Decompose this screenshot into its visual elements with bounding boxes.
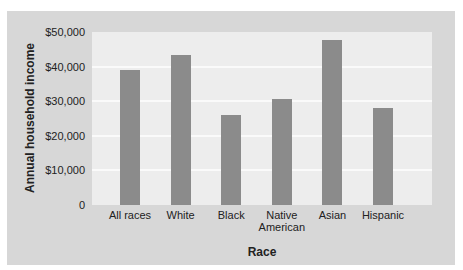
gridline [92, 100, 432, 102]
y-tick-label: $50,000 [0, 26, 85, 38]
bar-black [221, 115, 241, 205]
gridline [92, 66, 432, 68]
x-tick-label: Hispanic [348, 209, 418, 221]
bar-asian [322, 40, 342, 205]
y-tick-label: $40,000 [0, 61, 85, 73]
bar-white [171, 55, 191, 205]
bar-native-american [272, 99, 292, 205]
bar-hispanic [373, 108, 393, 205]
y-tick-label: 0 [0, 199, 85, 211]
plot-area [92, 32, 432, 205]
bar-all-races [120, 70, 140, 205]
y-axis-label: Annual household income [23, 43, 37, 193]
y-tick-label: $30,000 [0, 95, 85, 107]
y-tick-label: $10,000 [0, 164, 85, 176]
x-axis-label: Race [248, 245, 277, 259]
y-tick-label: $20,000 [0, 130, 85, 142]
